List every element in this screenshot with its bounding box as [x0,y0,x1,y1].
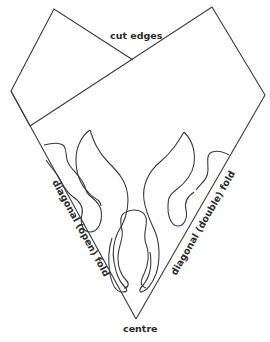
right-flame-cutout [140,132,195,292]
folded-paper-outline [11,7,265,319]
center-vase-cutout [118,210,148,288]
back-layer-edge [11,9,133,126]
left-fold-label: diagonal (open) fold [50,178,112,279]
right-diagonal-fold-line [136,95,265,319]
paper-cut-template-diagram: cut edges diagonal (open) fold diagonal … [0,0,270,342]
centre-label: centre [123,323,158,334]
front-layer-top-edge [30,7,265,126]
cut-edges-label: cut edges [110,30,163,41]
right-fold-label: diagonal (double) fold [168,169,237,277]
